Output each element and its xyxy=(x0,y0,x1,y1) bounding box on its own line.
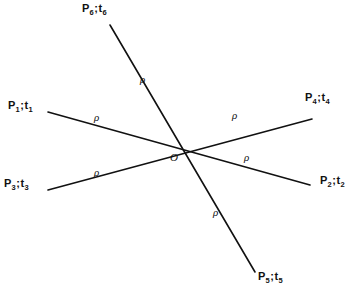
rho-label-p6: ρ xyxy=(140,74,145,85)
time-subscript-p1: 1 xyxy=(28,105,32,114)
time-subscript-p5: 5 xyxy=(278,276,282,285)
origin-label: O xyxy=(170,152,178,163)
line-p1-p2 xyxy=(48,112,310,185)
line-p6-p5 xyxy=(110,25,255,272)
line-p3-p4 xyxy=(48,119,312,190)
rho-label-p5: ρ xyxy=(213,207,218,218)
time-subscript-p3: 3 xyxy=(24,183,28,192)
point-label-p1: P1;t1 xyxy=(8,100,33,114)
time-subscript-p6: 6 xyxy=(102,8,106,17)
point-symbol-p4: P xyxy=(305,91,313,103)
point-label-p2: P2;t2 xyxy=(320,175,345,189)
time-subscript-p4: 4 xyxy=(325,97,329,106)
rho-label-p2: ρ xyxy=(244,152,249,163)
ray-diagram-figure: O P1;t1 P2;t2 P3;t3 P4;t4 P5;t5 P6;t6 ρ … xyxy=(0,0,357,300)
diagram-canvas xyxy=(0,0,357,300)
point-label-p3: P3;t3 xyxy=(4,178,29,192)
point-symbol-p5: P xyxy=(258,270,266,282)
point-symbol-p6: P xyxy=(82,2,90,14)
point-symbol-p2: P xyxy=(320,174,328,186)
rho-label-p4: ρ xyxy=(232,110,237,121)
point-symbol-p3: P xyxy=(4,177,12,189)
point-label-p5: P5;t5 xyxy=(258,271,283,285)
point-label-p4: P4;t4 xyxy=(305,92,330,106)
rho-label-p3: ρ xyxy=(94,167,99,178)
point-label-p6: P6;t6 xyxy=(82,3,107,17)
rho-label-p1: ρ xyxy=(94,112,99,123)
point-symbol-p1: P xyxy=(8,99,16,111)
time-subscript-p2: 2 xyxy=(340,180,344,189)
